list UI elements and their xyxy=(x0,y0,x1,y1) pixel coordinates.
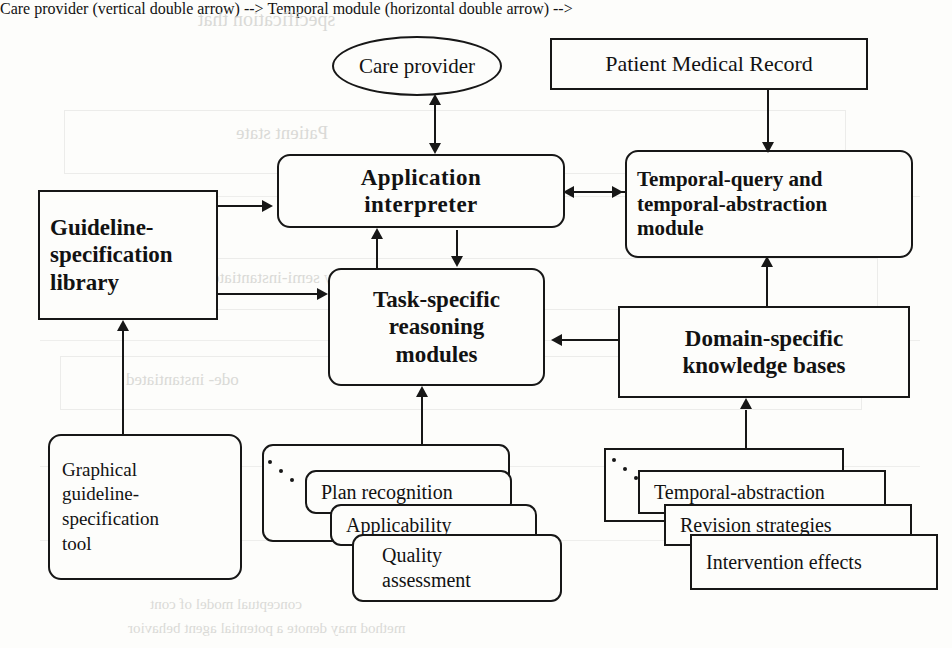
arrowhead-right-task xyxy=(317,288,328,300)
arrowhead-up-library xyxy=(117,320,129,331)
node-patient-medical-record-label: Patient Medical Record xyxy=(601,51,817,77)
node-application-interpreter[interactable]: Application interpreter xyxy=(277,154,565,228)
node-temporal-module-line-3: module xyxy=(637,216,827,241)
task-stack-card-quality-assessment[interactable]: Quality assessment xyxy=(352,534,562,602)
connector-domain-task xyxy=(562,339,620,341)
node-graphical-tool-line-3: specification xyxy=(62,507,159,532)
arrowhead-right-interpreter xyxy=(262,200,273,212)
connector-stack-domain xyxy=(745,410,747,450)
connector-task-interpreter-up xyxy=(376,236,378,270)
arrowhead-right-temporal xyxy=(612,186,623,198)
task-stack-card-plan-recognition-label: Plan recognition xyxy=(307,480,453,504)
connector-stack-task xyxy=(421,397,423,445)
bleed-text-2: Patient state xyxy=(236,122,328,144)
arrowhead-down-interpreter xyxy=(429,143,441,154)
node-guideline-library-line-2: specification xyxy=(50,241,173,268)
knowledge-stack-ellipsis xyxy=(612,458,652,492)
node-domain-specific-line-1: Domain-specific xyxy=(683,325,846,352)
node-domain-specific-line-2: knowledge bases xyxy=(683,352,846,379)
knowledge-stack-card-intervention-effects-label: Intervention effects xyxy=(692,550,862,574)
node-graphical-tool-line-2: guideline- xyxy=(62,482,159,507)
bleed-text-4: ode- instantiated xyxy=(126,370,239,390)
arrowhead-up-care-provider xyxy=(429,94,441,105)
connector-domain-temporal xyxy=(766,266,768,308)
arrowhead-up-interpreter xyxy=(371,228,383,239)
task-stack-ellipsis xyxy=(268,460,308,494)
bleed-text-1: specification that xyxy=(198,8,335,31)
arrowhead-left-task xyxy=(551,334,562,346)
arrowhead-up-domain-specific xyxy=(740,398,752,409)
node-application-interpreter-line-1: Application xyxy=(361,164,482,191)
arrowhead-down-temporal xyxy=(762,142,774,153)
node-guideline-library-line-1: Guideline- xyxy=(50,214,173,241)
bleed-text-3: by semi-instantiate xyxy=(212,268,341,288)
node-guideline-specification-library[interactable]: Guideline- specification library xyxy=(38,190,218,320)
node-task-specific-line-2: reasoning xyxy=(373,313,500,340)
knowledge-stack-card-temporal-abstraction-label: Temporal-abstraction xyxy=(640,480,825,504)
node-guideline-library-line-3: library xyxy=(50,269,173,296)
node-domain-specific-knowledge-bases[interactable]: Domain-specific knowledge bases xyxy=(618,306,910,398)
node-temporal-module-line-2: temporal-abstraction xyxy=(637,192,827,217)
node-patient-medical-record[interactable]: Patient Medical Record xyxy=(550,38,868,90)
connector-library-interpreter xyxy=(218,205,266,207)
connector-tool-library xyxy=(122,330,124,434)
node-graphical-tool-line-1: Graphical xyxy=(62,458,159,483)
node-temporal-query-abstraction-module[interactable]: Temporal-query and temporal-abstraction … xyxy=(625,150,913,258)
connector-library-task xyxy=(218,293,322,295)
node-task-specific-reasoning-modules[interactable]: Task-specific reasoning modules xyxy=(328,268,545,386)
knowledge-stack-card-intervention-effects[interactable]: Intervention effects xyxy=(690,534,938,590)
bleed-text-7: method may denote a potential agent beha… xyxy=(128,620,405,637)
arrowhead-left-interpreter xyxy=(563,186,574,198)
node-application-interpreter-line-2: interpreter xyxy=(361,191,482,218)
task-stack-card-quality-line-1: Quality xyxy=(382,543,471,568)
arrowhead-down-task xyxy=(451,256,463,267)
node-temporal-module-line-1: Temporal-query and xyxy=(637,167,827,192)
node-task-specific-line-3: modules xyxy=(373,341,500,368)
task-stack-card-quality-line-2: assessment xyxy=(382,568,471,593)
bleed-text-6: conceptual model of cont xyxy=(150,596,302,613)
node-care-provider[interactable]: Care provider xyxy=(332,36,502,96)
node-task-specific-line-1: Task-specific xyxy=(373,286,500,313)
arrowhead-up-task-specific xyxy=(416,386,428,397)
arrowhead-up-temporal-module xyxy=(761,256,773,267)
node-graphical-tool-line-4: tool xyxy=(62,532,159,557)
node-graphical-guideline-specification-tool[interactable]: Graphical guideline- specification tool xyxy=(48,434,242,580)
node-care-provider-label: Care provider xyxy=(359,54,475,79)
diagram-canvas: specification that Patient state by semi… xyxy=(0,0,952,648)
